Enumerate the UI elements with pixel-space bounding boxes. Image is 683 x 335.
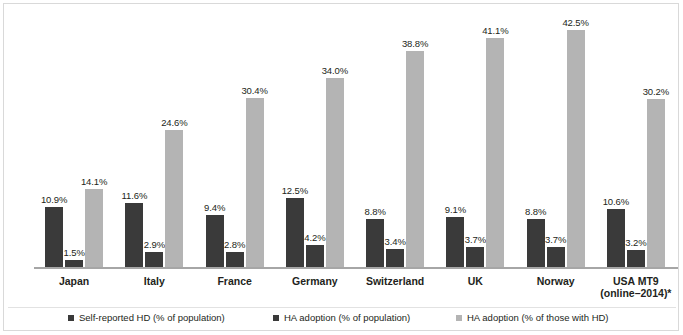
bar-value-label: 30.2% <box>641 86 671 97</box>
bar-2[interactable] <box>466 247 484 268</box>
bar-value-label: 24.6% <box>159 117 189 128</box>
bar-1[interactable] <box>45 207 63 268</box>
chart-frame: 10.9%1.5%14.1%11.6%2.9%24.6%9.4%2.8%30.4… <box>3 3 679 331</box>
bar-value-label: 10.9% <box>39 194 69 205</box>
category-label-2: Italy <box>114 275 194 287</box>
bar-3[interactable] <box>165 130 183 268</box>
bar-value-label: 42.5% <box>561 17 591 28</box>
bar-value-label: 14.1% <box>79 176 109 187</box>
plot-area: 10.9%1.5%14.1%11.6%2.9%24.6%9.4%2.8%30.4… <box>34 12 676 268</box>
legend-label: Self-reported HD (% of population) <box>79 312 225 323</box>
bar-value-label: 41.1% <box>480 25 510 36</box>
bar-3[interactable] <box>567 30 585 268</box>
bar-value-label: 8.8% <box>360 206 390 217</box>
category-label-1: Japan <box>34 275 114 287</box>
category-label-6: UK <box>435 275 515 287</box>
bar-group: 10.6%3.2%30.2% <box>596 12 676 268</box>
legend-swatch-icon <box>68 315 74 321</box>
bar-1[interactable] <box>125 203 143 268</box>
x-axis-line <box>34 267 678 269</box>
bar-value-label: 38.8% <box>400 38 430 49</box>
bar-group: 11.6%2.9%24.6% <box>114 12 194 268</box>
bar-group: 8.8%3.4%38.8% <box>355 12 435 268</box>
bar-group: 9.4%2.8%30.4% <box>195 12 275 268</box>
bar-value-label: 12.5% <box>280 185 310 196</box>
legend-item-1[interactable]: Self-reported HD (% of population) <box>68 312 225 323</box>
bar-3[interactable] <box>406 51 424 268</box>
bar-2[interactable] <box>145 252 163 268</box>
bar-3[interactable] <box>246 98 264 268</box>
bar-value-label: 10.6% <box>601 196 631 207</box>
category-axis-labels: JapanItalyFranceGermanySwitzerlandUKNorw… <box>34 272 678 306</box>
legend-label: HA adoption (% of population) <box>284 312 410 323</box>
legend-label: HA adoption (% of those with HD) <box>467 312 609 323</box>
category-label-5: Switzerland <box>355 275 435 287</box>
category-label-3: France <box>195 275 275 287</box>
bar-value-label: 8.8% <box>521 206 551 217</box>
bar-2[interactable] <box>306 245 324 268</box>
bar-2[interactable] <box>386 249 404 268</box>
chart-legend: Self-reported HD (% of population)HA ado… <box>8 307 676 330</box>
bar-value-label: 9.1% <box>440 204 470 215</box>
category-label-4: Germany <box>275 275 355 287</box>
bar-2[interactable] <box>627 250 645 268</box>
bar-3[interactable] <box>647 99 665 268</box>
bar-group: 12.5%4.2%34.0% <box>275 12 355 268</box>
legend-swatch-icon <box>456 315 462 321</box>
legend-item-2[interactable]: HA adoption (% of population) <box>273 312 410 323</box>
legend-item-3[interactable]: HA adoption (% of those with HD) <box>456 312 609 323</box>
bar-3[interactable] <box>85 189 103 268</box>
bar-group: 9.1%3.7%41.1% <box>435 12 515 268</box>
bar-value-label: 11.6% <box>119 190 149 201</box>
bar-value-label: 34.0% <box>320 65 350 76</box>
bar-value-label: 9.4% <box>200 202 230 213</box>
category-label-8: USA MT9(online–2014)* <box>596 275 676 299</box>
bar-3[interactable] <box>486 38 504 268</box>
bar-2[interactable] <box>547 247 565 268</box>
category-label-7: Norway <box>516 275 596 287</box>
bar-2[interactable] <box>226 252 244 268</box>
bar-group: 10.9%1.5%14.1% <box>34 12 114 268</box>
legend-swatch-icon <box>273 315 279 321</box>
bar-group: 8.8%3.7%42.5% <box>516 12 596 268</box>
bar-3[interactable] <box>326 78 344 268</box>
bar-value-label: 30.4% <box>240 85 270 96</box>
